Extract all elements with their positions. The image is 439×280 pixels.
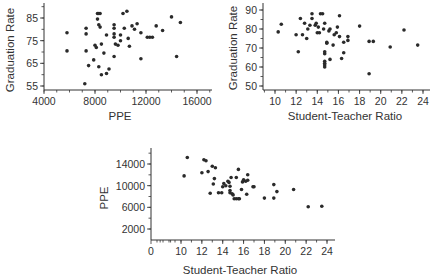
data-point	[342, 41, 346, 45]
y-tick-label: 6000	[122, 201, 146, 213]
y-tick-label: 65	[26, 57, 38, 69]
data-point	[100, 73, 104, 77]
data-point	[100, 42, 104, 46]
data-point	[112, 32, 116, 36]
data-point	[317, 25, 321, 29]
data-point	[98, 25, 102, 29]
x-tick-label: 10	[269, 95, 281, 107]
data-point	[98, 12, 102, 16]
data-point	[139, 31, 143, 35]
data-point	[107, 67, 111, 71]
data-point	[220, 191, 224, 195]
x-tick-label: 8000	[83, 95, 107, 107]
x-tick-label: 16	[333, 95, 345, 107]
x-axis-label: Student-Teacher Ratio	[183, 264, 297, 276]
data-point	[318, 31, 322, 35]
data-point	[238, 197, 242, 201]
y-tick-label: 60	[245, 61, 257, 73]
data-point	[240, 188, 244, 192]
data-point	[139, 57, 143, 61]
data-point	[367, 72, 371, 76]
data-point	[367, 40, 371, 44]
data-point	[358, 24, 362, 28]
data-point	[135, 22, 139, 26]
data-point	[342, 51, 346, 55]
data-point	[346, 35, 350, 39]
x-axis-label: Student-Teacher Ratio	[288, 110, 402, 122]
data-point	[105, 33, 109, 37]
data-point	[388, 45, 392, 49]
data-point	[338, 14, 342, 18]
data-point	[402, 28, 406, 32]
data-point	[123, 26, 127, 30]
y-tick-label: 80	[245, 23, 257, 35]
data-point	[272, 183, 276, 187]
data-point	[154, 24, 158, 28]
x-tick-label: 20	[375, 95, 387, 107]
data-point	[119, 39, 123, 43]
data-point	[112, 26, 116, 30]
data-point	[211, 164, 215, 168]
data-point	[310, 12, 314, 16]
x-tick-label: 16	[238, 245, 250, 257]
data-point	[229, 176, 233, 180]
data-point	[325, 42, 329, 46]
data-point	[175, 55, 179, 59]
data-point	[186, 156, 190, 160]
x-tick-label: 14	[217, 245, 229, 257]
data-point	[246, 173, 250, 177]
x-tick-label: 24	[417, 95, 429, 107]
data-point	[338, 35, 342, 39]
data-point	[275, 190, 279, 194]
data-point	[346, 39, 350, 43]
x-tick-label: 4000	[32, 95, 56, 107]
data-point	[305, 37, 309, 41]
data-point	[372, 40, 376, 44]
data-point	[328, 27, 332, 31]
data-point	[212, 182, 216, 186]
data-point	[306, 205, 310, 209]
data-point	[112, 23, 116, 27]
data-point	[245, 193, 249, 197]
data-point	[200, 171, 204, 175]
x-tick-label: 24	[321, 245, 333, 257]
data-point	[323, 22, 327, 26]
data-point	[323, 65, 327, 69]
x-tick-label: 14	[311, 95, 323, 107]
x-tick-label: 12000	[131, 95, 160, 107]
y-tick-label: 90	[245, 4, 257, 16]
data-point	[119, 33, 123, 37]
data-point	[112, 55, 116, 59]
data-point	[95, 46, 99, 50]
scatter-student-teacher-ratio-vs-ppe: PPE Student-Teacher Ratio 01012141618202…	[98, 148, 335, 276]
data-point	[161, 29, 165, 33]
data-point	[228, 184, 232, 188]
data-point	[235, 176, 239, 180]
data-point	[323, 52, 327, 56]
data-point	[105, 72, 109, 76]
data-point	[208, 192, 212, 196]
data-point	[87, 64, 91, 68]
data-point	[314, 22, 318, 26]
data-point	[336, 25, 340, 29]
scatter-student-teacher-ratio-vs-graduation-rate: Graduation Rate Student-Teacher Ratio 10…	[227, 3, 430, 122]
data-point	[116, 43, 120, 47]
data-point	[340, 57, 344, 61]
data-point	[84, 49, 88, 53]
data-point	[112, 36, 116, 40]
data-point	[322, 27, 326, 31]
x-tick-label: 22	[396, 95, 408, 107]
data-point	[237, 168, 241, 172]
data-point	[128, 45, 132, 49]
data-point	[92, 58, 96, 62]
y-tick-label: 75	[26, 35, 38, 47]
x-tick-label: 12	[290, 95, 302, 107]
x-tick-label: 18	[354, 95, 366, 107]
data-point	[246, 179, 250, 183]
data-point	[292, 188, 296, 192]
data-point	[321, 12, 325, 16]
x-tick-label: 20	[279, 245, 291, 257]
data-point	[217, 191, 221, 195]
data-point	[151, 36, 155, 40]
data-point	[280, 23, 284, 27]
